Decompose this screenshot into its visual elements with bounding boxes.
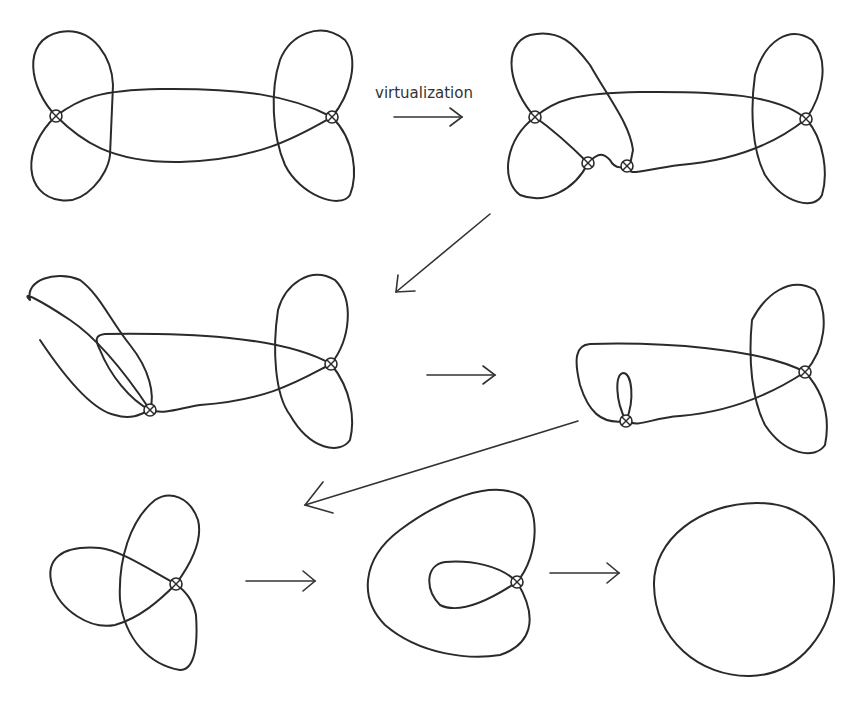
arrow-2-to-3 [396, 214, 490, 292]
diagram-canvas [0, 0, 858, 701]
arrow-5-to-6 [246, 571, 315, 591]
virtual-crossing-icon [582, 157, 594, 169]
virtual-crossing-icon [170, 578, 182, 590]
step-1-curve [31, 31, 354, 201]
virtualization-arrow [394, 108, 462, 126]
virtual-crossing-icon [529, 111, 541, 123]
virtual-crossing-icon [511, 576, 523, 588]
virtual-crossing-icon [800, 113, 812, 125]
step-6-curve [368, 490, 535, 657]
virtual-crossing-icon [621, 160, 633, 172]
virtual-crossing-icon [326, 111, 338, 123]
step-5-curve [50, 496, 199, 670]
virtual-crossing-icon [144, 404, 156, 416]
step-7-circle [654, 503, 834, 676]
virtual-crossing-icon [325, 358, 337, 370]
virtual-crossing-icon [620, 415, 632, 427]
virtual-crossing-icon [50, 110, 62, 122]
arrow-3-to-4 [427, 366, 495, 384]
virtual-crossing-icon [799, 366, 811, 378]
arrow-4-to-5 [305, 421, 578, 513]
step-3-curve [27, 275, 352, 448]
step-2-curve [508, 33, 825, 203]
step-4-curve [577, 285, 827, 453]
arrow-6-to-7 [550, 563, 619, 583]
